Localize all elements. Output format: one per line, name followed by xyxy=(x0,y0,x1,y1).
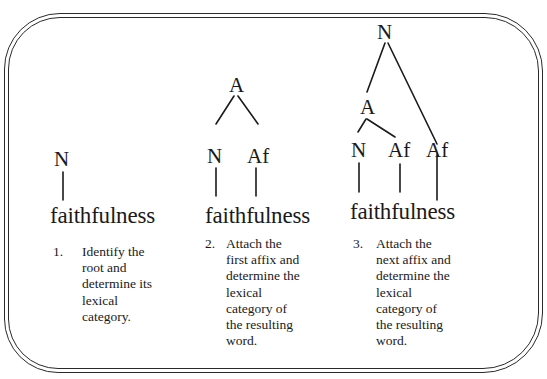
p3-word: faithfulness xyxy=(350,200,455,223)
p2-node-af: Af xyxy=(247,146,269,167)
p1-step-number: 1. xyxy=(53,244,63,260)
p1-node-n: N xyxy=(54,149,69,170)
p3-branch-n-to-a xyxy=(367,43,385,92)
p3-branch-a-to-n xyxy=(358,119,366,132)
p2-branch-a-to-n xyxy=(216,96,234,124)
p2-step-text: Attach the first affix and determine the… xyxy=(226,236,300,349)
p2-word: faithfulness xyxy=(205,204,310,227)
morphology-tree-figure: N faithfulness 1. Identify the root and … xyxy=(0,0,547,379)
p3-branch-n-to-af xyxy=(388,43,437,144)
p3-branch-a-to-af xyxy=(367,119,395,137)
p2-branch-a-to-af xyxy=(238,96,258,124)
p3-step-number: 3. xyxy=(353,236,363,252)
p1-word: faithfulness xyxy=(50,204,155,227)
p3-node-af-2: Af xyxy=(426,140,448,161)
p1-step-text: Identify the root and determine its lexi… xyxy=(82,244,152,325)
p2-node-a: A xyxy=(229,75,244,96)
p2-node-n: N xyxy=(207,146,222,167)
p3-node-a: A xyxy=(360,97,375,118)
p3-node-n: N xyxy=(351,140,366,161)
p3-step-text: Attach the next affix and determine the … xyxy=(376,236,451,349)
p3-node-af-1: Af xyxy=(388,140,410,161)
p2-step-number: 2. xyxy=(205,236,215,252)
p3-node-n-top: N xyxy=(377,22,392,43)
